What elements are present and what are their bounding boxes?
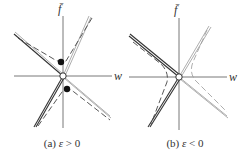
panel-a: w f̄ (a) ε > 0 — [0, 0, 124, 153]
vertex-dot-upper — [58, 59, 64, 65]
asymptote-line — [150, 79, 180, 127]
asymptote-line — [180, 79, 228, 118]
f-axis-label: f̄ — [174, 3, 179, 17]
f-axis-label: f̄ — [58, 2, 63, 16]
origin-open-circle — [176, 74, 182, 80]
asymptote-line — [34, 76, 63, 127]
w-axis-label: w — [229, 70, 237, 84]
asymptote-line — [179, 26, 209, 77]
caption-relation: > 0 — [63, 137, 80, 149]
caption-relation: < 0 — [186, 137, 203, 149]
panel-b: w f̄ (b) ε < 0 — [123, 0, 247, 153]
origin-open-circle — [60, 73, 66, 79]
diagram-a: w f̄ — [0, 0, 124, 153]
w-axis-label: w — [114, 69, 122, 83]
asymptote-line — [129, 36, 179, 77]
asymptote-line — [63, 76, 110, 116]
asymptote-line — [181, 27, 211, 77]
asymptote-line — [15, 32, 63, 74]
asymptote-line — [130, 34, 180, 75]
hyperbola-branch-left — [133, 42, 167, 124]
asymptote-line — [63, 16, 89, 76]
caption-label: (a) — [44, 137, 59, 149]
caption-a: (a) ε > 0 — [0, 137, 124, 149]
hyperbola-branch-right — [191, 30, 227, 112]
asymptote-line — [64, 78, 111, 118]
asymptote-line — [36, 78, 64, 127]
diagram-b: w f̄ — [123, 0, 247, 153]
caption-label: (b) — [166, 137, 182, 149]
vertex-dot-lower — [64, 86, 70, 92]
asymptote-line — [179, 77, 227, 116]
caption-b: (b) ε < 0 — [123, 137, 247, 149]
